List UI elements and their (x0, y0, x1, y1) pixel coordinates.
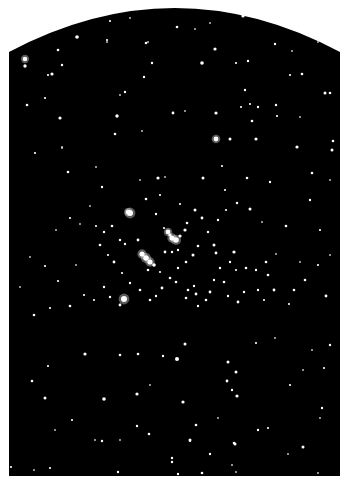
star (257, 429, 259, 431)
star (29, 256, 31, 258)
star (192, 254, 195, 257)
star (71, 419, 73, 421)
star (34, 152, 36, 154)
star (121, 296, 127, 302)
star (329, 179, 331, 181)
star (235, 269, 237, 271)
star (83, 352, 86, 355)
star (321, 407, 323, 409)
star (201, 472, 204, 475)
star (159, 271, 161, 273)
star (325, 295, 328, 298)
star (79, 223, 81, 225)
star (224, 189, 226, 191)
star (156, 176, 159, 179)
star (169, 277, 172, 280)
star (319, 417, 321, 419)
star (234, 443, 237, 446)
star (324, 92, 327, 95)
star (195, 293, 198, 296)
star (240, 106, 242, 108)
star (173, 237, 179, 243)
star (44, 265, 46, 267)
star (175, 357, 179, 361)
star (171, 457, 173, 459)
star (101, 186, 103, 188)
star (115, 114, 118, 117)
star (61, 64, 63, 66)
star (214, 137, 219, 142)
star (83, 294, 85, 296)
star (117, 471, 119, 473)
star (215, 252, 218, 255)
star (23, 64, 26, 67)
star (197, 305, 199, 307)
star (249, 208, 252, 211)
star (317, 472, 319, 474)
star (301, 73, 304, 76)
star (137, 239, 140, 242)
star (241, 14, 244, 17)
star (164, 251, 167, 254)
star (231, 464, 233, 466)
star (54, 429, 56, 431)
star (135, 392, 138, 395)
star (289, 74, 291, 76)
star (249, 103, 251, 105)
star (31, 380, 34, 383)
star (175, 281, 178, 284)
star (26, 104, 29, 107)
star (109, 20, 111, 22)
star (151, 62, 153, 64)
star (251, 120, 254, 123)
star (75, 35, 79, 39)
star (139, 179, 141, 181)
star (287, 453, 289, 455)
star (255, 342, 257, 344)
star (67, 171, 70, 174)
star (217, 219, 219, 221)
star (103, 286, 105, 288)
star (245, 267, 248, 270)
star (152, 263, 156, 267)
star (181, 400, 184, 403)
star (109, 296, 111, 298)
star (214, 111, 217, 114)
star (44, 397, 47, 400)
star (232, 250, 235, 253)
star (50, 72, 53, 75)
star (184, 343, 187, 346)
star (93, 299, 95, 301)
star (177, 473, 179, 475)
star (223, 281, 226, 284)
star (197, 245, 200, 248)
star (162, 355, 164, 357)
star (235, 62, 237, 64)
star (177, 249, 179, 251)
star (274, 337, 276, 339)
star (101, 440, 103, 442)
star (221, 165, 223, 167)
star (194, 28, 196, 30)
star (183, 228, 186, 231)
star (161, 287, 164, 290)
star (331, 149, 334, 152)
star (139, 289, 142, 292)
star (114, 133, 117, 136)
star (33, 314, 36, 317)
star (61, 147, 63, 149)
star (207, 231, 209, 233)
star (293, 289, 296, 292)
star (254, 137, 257, 140)
star (106, 41, 108, 43)
star (143, 76, 145, 78)
star (177, 267, 179, 269)
star (47, 74, 49, 76)
star (103, 231, 105, 233)
star (57, 280, 59, 282)
star (302, 446, 305, 449)
star (186, 222, 189, 225)
star (244, 89, 246, 91)
star (75, 264, 77, 266)
star (184, 110, 186, 112)
